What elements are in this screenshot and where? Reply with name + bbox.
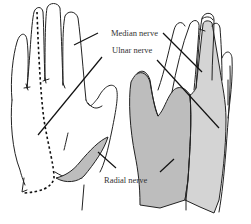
median-leader-left [74, 33, 98, 45]
label-median-nerve: Median nerve [111, 29, 158, 38]
nerve-distribution-diagram: Median nerve Ulnar nerve Radial nerve [0, 0, 251, 224]
radial-leader-left [98, 152, 116, 168]
label-radial-nerve: Radial nerve [104, 176, 147, 185]
ulnar-boundary-line [24, 12, 54, 193]
radial-region-left [56, 137, 108, 182]
ulnar-leader-left [38, 57, 102, 135]
left-hand [11, 4, 117, 211]
radial-region-right [130, 71, 191, 208]
label-ulnar-nerve: Ulnar nerve [112, 46, 152, 55]
